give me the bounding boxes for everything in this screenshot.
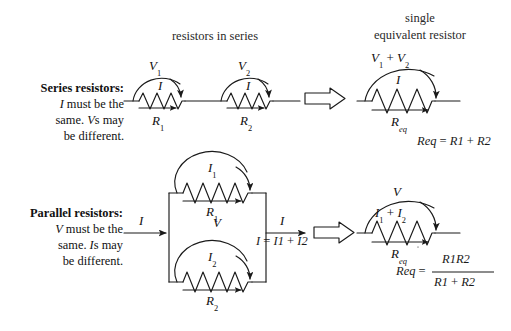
parallel-r1-current-label: I1 <box>208 161 217 178</box>
series-r2-voltage-label: V2 <box>238 59 250 76</box>
series-eq-current-label: I <box>396 73 400 88</box>
parallel-block-arrow <box>314 222 354 243</box>
parallel-eq-voltage-label: V <box>393 185 401 200</box>
parallel-r1-current-arc-head <box>236 167 250 190</box>
series-description: Series resistors: I must be the same. Vs… <box>0 80 124 145</box>
series-r1-current-label: I <box>158 79 162 94</box>
heading-equivalent-line1: single <box>350 11 490 25</box>
series-r2-resistance-label: R2 <box>240 114 252 131</box>
series-r1-voltage-label: V1 <box>149 59 161 76</box>
parallel-r1-resistance-label: R1 <box>206 205 218 222</box>
series-r2-current-label: I <box>246 79 250 94</box>
parallel-input-current-label: I <box>139 214 143 229</box>
parallel-equivalent-formula-lhs: Req = <box>396 264 426 278</box>
series-resistor-2-symbol <box>227 93 273 109</box>
series-eq-resistance-label: Req <box>391 115 407 132</box>
parallel-kcl-equation: I = I1 + I2 <box>256 234 308 248</box>
parallel-eq-voltage-arc-head <box>420 202 436 230</box>
parallel-r2-resistance-label: R2 <box>206 294 218 311</box>
parallel-equivalent-formula-numerator: R1R2 <box>442 252 470 266</box>
parallel-r2-current-arc-head <box>236 256 250 279</box>
parallel-description-line4: be different. <box>0 253 123 269</box>
parallel-r2-current-label: I2 <box>208 250 217 267</box>
series-description-line2: I must be the <box>0 96 124 112</box>
parallel-description-line3: same. Is may <box>0 237 123 253</box>
series-description-line1: Series resistors: <box>0 80 124 96</box>
series-block-arrow <box>305 88 345 109</box>
parallel-description-line2: V must be the <box>0 221 123 237</box>
heading-equivalent-line2: equivalent resistor <box>350 28 490 42</box>
series-resistor-1-symbol <box>139 93 185 109</box>
parallel-output-current-label: I <box>280 214 284 229</box>
series-description-line3: same. Vs may <box>0 112 124 128</box>
parallel-resistor-1-symbol <box>183 183 252 203</box>
series-eq-voltage-label: V1 + V2 <box>371 51 409 68</box>
parallel-resistor-2-symbol <box>183 272 252 292</box>
series-eq-voltage-arc-head <box>420 70 436 98</box>
series-eq-resistor-symbol <box>372 89 435 113</box>
parallel-description-line1: Parallel resistors: <box>0 205 123 221</box>
series-equivalent-formula: Req = R1 + R2 <box>417 134 491 148</box>
parallel-eq-resistance-label: Req <box>391 247 407 264</box>
heading-resistors-in-series: resistors in series <box>165 29 265 43</box>
parallel-description: Parallel resistors: V must be the same. … <box>0 205 123 270</box>
series-r1-resistance-label: R1 <box>152 114 164 131</box>
series-description-line4: be different. <box>0 128 124 144</box>
parallel-eq-current-label: I1 + I2 <box>375 206 406 223</box>
parallel-equivalent-formula-denominator: R1 + R2 <box>434 275 475 289</box>
circuit-diagram-figure: resistors in series single equivalent re… <box>0 0 511 331</box>
